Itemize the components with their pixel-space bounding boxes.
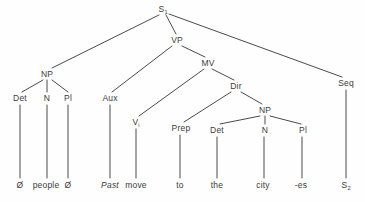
tree-leaf-leaf-the: the: [211, 181, 223, 190]
tree-edge-S1-to-Seq: [169, 14, 342, 77]
tree-node-pl2: Pl: [299, 126, 307, 135]
tree-edge-NP2-to-Pl2: [270, 116, 301, 124]
tree-node-aux: Aux: [102, 94, 117, 103]
tree-edge-MV-to-Vi: [139, 69, 204, 116]
tree-leaf-leaf-to: to: [176, 181, 184, 190]
tree-node-np1: NP: [41, 70, 53, 79]
tree-edge-Dir-to-NP2: [241, 92, 262, 104]
tree-edge-NP2-to-Det2: [220, 116, 260, 124]
tree-node-seq: Seq: [338, 79, 354, 88]
tree-node-prep: Prep: [172, 124, 191, 133]
tree-node-subscript-s1: 1: [164, 9, 167, 15]
tree-node-subscript-vi: i: [138, 122, 139, 128]
tree-leaf-leaf-move: move: [125, 181, 147, 190]
tree-node-s1: S1: [159, 5, 168, 14]
tree-leaf-leaf-s2: S2: [342, 181, 351, 190]
tree-leaf-leaf-people: people: [33, 181, 60, 190]
tree-node-dir: Dir: [230, 82, 241, 91]
tree-edges-layer: [0, 0, 365, 202]
tree-node-pl1: Pl: [64, 94, 72, 103]
tree-edge-NP1-to-Pl1: [52, 80, 68, 92]
tree-leaf-leaf-city: city: [256, 181, 270, 190]
tree-edge-VP-to-MV: [182, 46, 205, 57]
tree-node-vp: VP: [171, 36, 183, 45]
tree-leaf-leaf-es: -es: [295, 181, 307, 190]
tree-node-vi: Vi: [132, 118, 139, 127]
tree-node-mv: MV: [201, 59, 214, 68]
tree-edge-VP-to-Aux: [112, 46, 172, 92]
syntax-tree-figure: S1NPVPSeqDetNPlAuxMVViDirPrepNPDetNPl Øp…: [0, 0, 365, 202]
tree-edge-S1-to-VP: [166, 15, 176, 34]
tree-node-n1: N: [44, 94, 50, 103]
tree-node-np2: NP: [259, 106, 271, 115]
tree-node-n2: N: [262, 126, 268, 135]
tree-leaf-subscript-leaf-s2: 2: [347, 185, 350, 191]
tree-leaf-leaf-null-2: Ø: [65, 181, 72, 190]
tree-node-det1: Det: [13, 94, 27, 103]
tree-edge-NP1-to-Det1: [22, 80, 43, 92]
tree-edge-S1-to-NP1: [52, 15, 159, 68]
tree-edge-MV-to-Dir: [212, 69, 234, 80]
tree-node-det2: Det: [210, 126, 224, 135]
tree-edge-Dir-to-Prep: [184, 92, 231, 122]
tree-leaf-leaf-null-1: Ø: [17, 181, 24, 190]
tree-leaf-leaf-past: Past: [101, 181, 119, 190]
